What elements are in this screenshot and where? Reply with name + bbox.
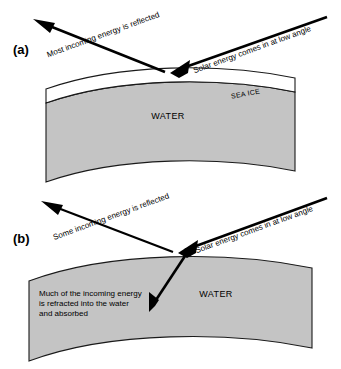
panel-b-incoming-solar-label: Solar energy comes in at low angle [194,204,315,255]
panel-b-refraction-note-line-1: Much of the incoming energy [39,289,142,298]
panel-a-reflected-label: Most incoming energy is reflected [46,10,161,59]
diagram-canvas: (a) SEA ICE WATER Solar energy comes in … [0,0,341,369]
panel-b-water-label: WATER [199,289,233,299]
panel-a-letter: (a) [13,42,29,57]
panel-a: (a) SEA ICE WATER Solar energy comes in … [13,10,327,182]
panel-a-reflected-arrow [33,19,165,72]
panel-b-reflected-arrowhead [41,201,63,215]
panel-b: (b) WATER Solar energy comes in at low a… [13,191,327,361]
panel-a-reflected-label-group: Most incoming energy is reflected [46,10,161,59]
panel-a-water-label: WATER [151,111,185,121]
panel-b-incoming-solar-label-group: Solar energy comes in at low angle [194,204,315,255]
panel-b-reflected-arrow [41,201,173,252]
panel-b-refraction-note-line-3: and absorbed [39,309,88,318]
sea-ice-albedo-diagram: (a) SEA ICE WATER Solar energy comes in … [0,0,341,369]
panel-b-refraction-note-line-2: is refracted into the water [39,299,129,308]
panel-b-reflected-label: Some incoming energy is reflected [52,191,170,241]
panel-b-letter: (b) [13,231,30,246]
panel-a-incoming-solar-label: Solar energy comes in at low angle [192,24,313,75]
panel-b-reflected-label-group: Some incoming energy is reflected [52,191,170,241]
panel-a-incoming-solar-label-group: Solar energy comes in at low angle [192,24,313,75]
panel-a-reflected-arrowhead [33,19,55,33]
panel-a-water-band [46,82,295,182]
